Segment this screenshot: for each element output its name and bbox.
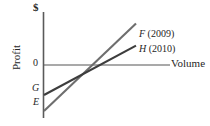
y-axis-unit-label: $ xyxy=(33,2,39,13)
series-line-h-2010 xyxy=(44,46,136,95)
series-year-f: (2009) xyxy=(148,28,175,39)
series-label-h-2010: H (2010) xyxy=(139,44,175,54)
intercept-label-g: G xyxy=(32,83,39,93)
series-year-h: (2010) xyxy=(149,43,176,54)
series-label-f-2009: F (2009) xyxy=(139,29,174,39)
profit-volume-chart: $ Profit 0 Volume F (2009) H (2010) G E xyxy=(0,0,210,126)
series-line-f-2009 xyxy=(44,23,136,110)
y-axis-zero-tick-label: 0 xyxy=(33,58,38,68)
x-axis-title: Volume xyxy=(171,58,205,69)
y-axis-title: Profit xyxy=(11,35,22,81)
intercept-label-e: E xyxy=(33,97,39,107)
